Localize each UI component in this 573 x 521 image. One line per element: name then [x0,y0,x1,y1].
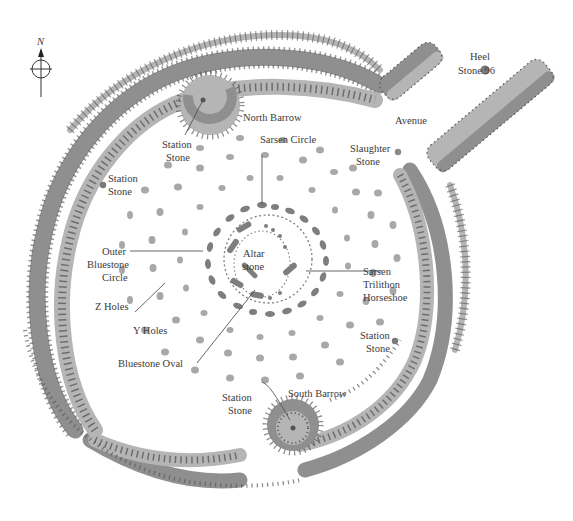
station-stone-w-label-1: Station [108,173,139,184]
sarsen-horseshoe-label-1: Sarsen [363,266,392,277]
station-stone-e-label-2: Stone [366,343,390,354]
inner-bluestones [264,224,287,300]
station-stone-s-label-1: Station [222,392,253,403]
station-stone-nw-label-1: Station [162,139,193,150]
south-barrow [265,397,321,453]
altar-stone-label-2: stone [242,261,265,272]
y-holes-label: Y Holes [133,325,167,336]
heel-stone-label-1: Heel [470,51,490,62]
sarsen-circle [205,202,329,317]
station-stone-s-label-2: Stone [228,405,252,416]
station-stone-w-label-2: Stone [108,186,132,197]
sarsen-horseshoe-label-3: Horseshoe [363,292,408,303]
outer-bluestone-label-1: Outer [102,246,126,257]
north-barrow-label: North Barrow [243,112,302,123]
compass-label: N [36,36,45,47]
slaughter-stone-label-1: Slaughter [350,143,391,154]
z-holes-label: Z Holes [95,301,129,312]
heel-stone-label-2: Stone 96 [458,65,495,76]
station-stone-e-label-1: Station [360,330,391,341]
altar-stone-label-1: Altar [243,248,265,259]
station-stone-w [100,182,106,188]
slaughter-stone [395,149,401,155]
avenue-label: Avenue [395,115,427,126]
avenue-banks [375,38,557,174]
slaughter-stone-label-2: Stone [356,156,380,167]
sarsen-horseshoe-label-2: Trilithon [363,279,401,290]
stonehenge-plan: N [0,0,573,521]
south-barrow-label: South Barrow [288,388,347,399]
outer-bluestone-label-2: Bluestone [87,259,129,270]
sarsen-circle-label: Sarsen Circle [260,134,317,145]
sarsen-trilithon-horseshoe [226,220,298,299]
station-stone-nw-label-2: Stone [166,152,190,163]
station-stone-e [392,338,398,344]
bluestone-oval-label: Bluestone Oval [118,358,183,369]
outer-bluestone-label-3: Circle [102,272,128,283]
north-arrow-compass-icon: N [30,36,52,97]
y-holes [119,135,401,384]
